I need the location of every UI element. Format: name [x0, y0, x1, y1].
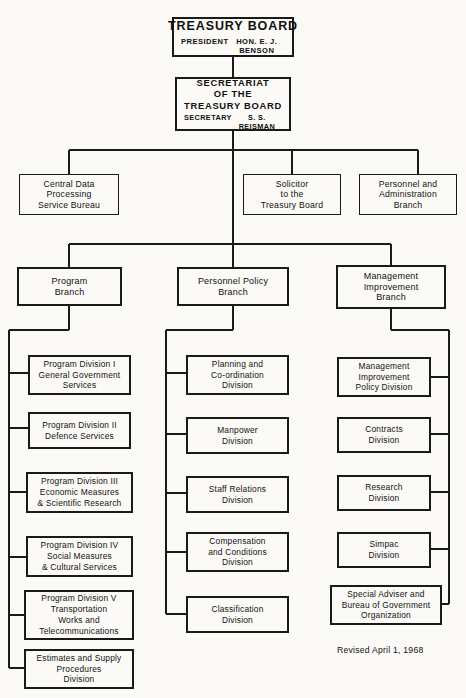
box-line: Compensation — [209, 536, 265, 547]
box-line: General Government — [39, 370, 121, 381]
box-line: Branch — [55, 287, 85, 298]
box-compensation-and-conditions-division[interactable]: Compensation and Conditions Division — [186, 532, 289, 572]
box-line: Telecommunications — [39, 626, 118, 637]
box-line: Planning and — [212, 359, 263, 370]
box-line: Management — [364, 271, 419, 282]
box-personnel-policy-branch[interactable]: Personnel Policy Branch — [177, 267, 289, 306]
box-line: & Scientific Research — [38, 498, 122, 509]
box-line: Program Division IV — [41, 540, 119, 551]
box-simpac-division[interactable]: Simpac Division — [337, 532, 431, 568]
box-line: Simpac — [369, 539, 398, 550]
box-line: Personnel and — [379, 179, 438, 190]
box-line: Division — [222, 436, 253, 447]
box-classification-division[interactable]: Classification Division — [186, 596, 289, 633]
box-program-branch[interactable]: Program Branch — [17, 267, 122, 306]
box-line: Contracts — [365, 424, 403, 435]
org-chart: TREASURY BOARD PRESIDENT HON. E. J. BENS… — [0, 0, 466, 698]
box-treasury-board[interactable]: TREASURY BOARD PRESIDENT HON. E. J. BENS… — [172, 17, 294, 57]
box-staff-relations-division[interactable]: Staff Relations Division — [186, 476, 289, 513]
box-line: Co-ordination — [211, 370, 264, 381]
box-line: Treasury Board — [261, 200, 323, 211]
box-secretariat[interactable]: SECRETARIAT OF THE TREASURY BOARD SECRET… — [175, 77, 291, 131]
box-line: Social Measures — [47, 551, 112, 562]
box-contracts-division[interactable]: Contracts Division — [337, 417, 431, 453]
box-line: Processing — [47, 189, 92, 200]
box-line: Branch — [218, 287, 248, 298]
box-line: Program Division I — [43, 359, 115, 370]
box-management-improvement-branch[interactable]: Management Improvement Branch — [336, 265, 446, 309]
box-line: and Conditions — [208, 547, 267, 558]
box-line: Personnel Policy — [198, 276, 268, 287]
treasury-board-officer: PRESIDENT HON. E. J. BENSON — [174, 35, 292, 55]
box-line: Branch — [376, 292, 406, 303]
box-line: Research — [365, 482, 402, 493]
box-line: Service Bureau — [38, 200, 100, 211]
president-name: HON. E. J. BENSON — [229, 37, 285, 55]
box-line: Division — [222, 380, 253, 391]
box-program-division-ii[interactable]: Program Division II Defence Services — [28, 412, 131, 449]
box-line: to the — [281, 189, 304, 200]
box-line: Division — [64, 674, 95, 685]
box-solicitor-to-the-treasury-board[interactable]: Solicitor to the Treasury Board — [243, 174, 341, 215]
box-line: Policy Division — [356, 382, 413, 393]
box-line: Program — [52, 276, 88, 287]
box-line: Program Division II — [42, 420, 117, 431]
box-line: Improvement — [358, 372, 409, 383]
secretariat-line-2: OF THE — [214, 88, 253, 99]
box-program-division-iv[interactable]: Program Division IV Social Measures & Cu… — [26, 536, 133, 577]
box-line: Organization — [361, 610, 411, 621]
secretary-name: S. S. REISMAN — [232, 113, 282, 131]
box-line: Staff Relations — [209, 484, 266, 495]
box-line: Division — [222, 557, 253, 568]
box-line: Division — [369, 493, 400, 504]
box-line: Improvement — [364, 282, 419, 293]
box-line: Division — [222, 615, 253, 626]
box-line: Bureau of Government — [342, 600, 431, 611]
box-personnel-and-administration-branch[interactable]: Personnel and Administration Branch — [359, 174, 457, 215]
box-line: Special Adviser and — [347, 589, 424, 600]
box-estimates-and-supply-procedures-division[interactable]: Estimates and Supply Procedures Division — [24, 649, 134, 689]
president-label: PRESIDENT — [181, 37, 229, 55]
box-special-adviser-and-bureau-of-government-organization[interactable]: Special Adviser and Bureau of Government… — [330, 585, 442, 625]
secretariat-line-1: SECRETARIAT — [197, 77, 270, 88]
box-line: Procedures — [57, 664, 102, 675]
box-line: Defence Services — [45, 431, 114, 442]
treasury-board-title: TREASURY BOARD — [168, 19, 298, 34]
box-line: Branch — [394, 200, 423, 211]
box-program-division-i[interactable]: Program Division I General Government Se… — [28, 355, 131, 395]
secretary-label: SECRETARY — [184, 113, 232, 131]
box-central-data-processing-service-bureau[interactable]: Central Data Processing Service Bureau — [19, 174, 119, 215]
box-line: Division — [369, 550, 400, 561]
secretariat-line-3: TREASURY BOARD — [184, 100, 282, 111]
box-line: Central Data — [43, 179, 94, 190]
box-line: Division — [369, 435, 400, 446]
box-management-improvement-policy-division[interactable]: Management Improvement Policy Division — [337, 357, 431, 397]
box-program-division-iii[interactable]: Program Division III Economic Measures &… — [26, 472, 133, 513]
box-line: Program Division III — [41, 476, 118, 487]
box-line: Administration — [379, 189, 437, 200]
box-line: Estimates and Supply — [36, 653, 121, 664]
box-line: Transportation — [51, 604, 108, 615]
box-line: Classification — [211, 604, 263, 615]
revision-date: Revised April 1, 1968 — [337, 645, 423, 655]
box-line: Management — [359, 361, 410, 372]
box-line: Division — [222, 495, 253, 506]
box-line: Services — [63, 380, 97, 391]
secretariat-officer: SECRETARY S. S. REISMAN — [177, 111, 289, 131]
box-research-division[interactable]: Research Division — [337, 475, 431, 511]
box-planning-and-coordination-division[interactable]: Planning and Co-ordination Division — [186, 355, 289, 395]
box-manpower-division[interactable]: Manpower Division — [186, 417, 289, 454]
box-line: Solicitor — [276, 179, 309, 190]
box-line: & Cultural Services — [42, 562, 117, 573]
box-line: Manpower — [217, 425, 258, 436]
box-line: Program Division V — [41, 593, 116, 604]
box-line: Economic Measures — [40, 487, 119, 498]
box-line: Works and — [58, 615, 100, 626]
box-program-division-v[interactable]: Program Division V Transportation Works … — [24, 590, 134, 640]
